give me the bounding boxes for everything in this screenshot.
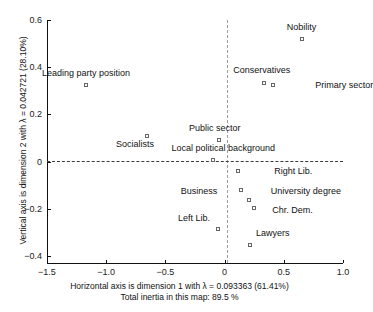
y-axis-title: Vertical axis is dimension 2 with λ = 0.…	[18, 11, 29, 271]
data-point-label: Primary sector	[315, 80, 373, 90]
x-axis-tick-label: −0.5	[145, 267, 185, 278]
data-point-marker[interactable]	[211, 158, 215, 162]
data-point-label: Local political background	[172, 143, 276, 153]
data-point-label: Lawyers	[256, 228, 290, 238]
y-axis-tick	[48, 114, 51, 115]
x-axis-tick-label: −1.0	[86, 267, 126, 278]
y-axis-tick	[48, 162, 51, 163]
data-point-marker[interactable]	[84, 83, 88, 87]
x-axis-title: Horizontal axis is dimension 1 with λ = …	[0, 281, 359, 292]
data-point-label: Business	[181, 186, 218, 196]
x-axis-tick	[284, 260, 285, 263]
data-point-label: Left Lib.	[178, 213, 210, 223]
x-axis-tick	[343, 260, 344, 263]
data-point-marker[interactable]	[217, 138, 221, 142]
data-point-marker[interactable]	[145, 134, 149, 138]
x-axis-tick	[106, 260, 107, 263]
x-axis-tick-label: −1.5	[27, 267, 67, 278]
data-point-label: Right Lib.	[274, 166, 312, 176]
x-axis-tick	[47, 260, 48, 263]
x-axis-tick	[225, 260, 226, 263]
data-point-marker[interactable]	[236, 169, 240, 173]
data-point-label: Nobility	[287, 22, 317, 32]
y-axis-tick	[48, 256, 51, 257]
data-point-label: Public sector	[189, 123, 241, 133]
y-axis-tick	[48, 209, 51, 210]
data-point-marker[interactable]	[271, 83, 275, 87]
data-point-marker[interactable]	[216, 227, 220, 231]
x-axis-tick-label: 0.5	[264, 267, 304, 278]
data-point-marker[interactable]	[262, 81, 266, 85]
data-point-label: Chr. Dem.	[272, 205, 313, 215]
data-point-marker[interactable]	[300, 37, 304, 41]
data-point-label: University degree	[271, 186, 341, 196]
x-axis-line	[47, 263, 343, 264]
data-point-marker[interactable]	[248, 243, 252, 247]
x-axis-tick-label: 0	[205, 267, 245, 278]
data-point-marker[interactable]	[252, 206, 256, 210]
data-point-label: Leading party position	[42, 68, 130, 78]
y-axis-line	[47, 20, 48, 264]
x-axis-tick	[165, 260, 166, 263]
vertical-reference-line	[227, 20, 228, 263]
data-point-label: Conservatives	[233, 65, 290, 75]
data-point-marker[interactable]	[239, 188, 243, 192]
data-point-label: Socialists	[116, 139, 154, 149]
data-point-marker[interactable]	[247, 198, 251, 202]
x-axis-tick-label: 1.0	[323, 267, 363, 278]
y-axis-tick	[48, 20, 51, 21]
total-inertia-label: Total inertia in this map: 89.5 %	[0, 292, 359, 303]
horizontal-reference-line	[47, 161, 343, 162]
